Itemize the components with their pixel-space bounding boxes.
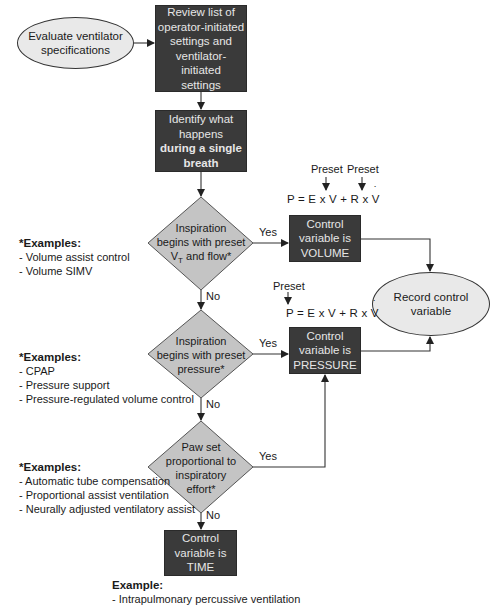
- decision1-line: Inspiration: [157, 221, 246, 235]
- example-item: - CPAP: [19, 364, 194, 378]
- example-item: - Automatic tube compensation: [19, 474, 195, 488]
- identify-line-bold: during a single: [160, 142, 242, 154]
- time-line: Control: [175, 531, 227, 546]
- examples-title: Example:: [112, 578, 300, 592]
- identify-line-bold: breath: [183, 157, 218, 169]
- volume-eq-preset2: Preset: [347, 163, 379, 175]
- time-line: TIME: [175, 560, 227, 575]
- eq-mid: + R x: [337, 193, 372, 205]
- review-settings-box: Review list of operator-initiated settin…: [155, 5, 247, 92]
- eq-flow-symbol: V: [372, 193, 380, 205]
- eq-lhs: P = E x: [286, 307, 328, 319]
- pressure-line: variable is: [293, 343, 356, 358]
- start-label-line2: specifications: [28, 43, 123, 58]
- pressure-control-box: Control variable is PRESSURE: [289, 327, 361, 374]
- examples-volume: *Examples: - Volume assist control - Vol…: [19, 236, 130, 278]
- time-line: variable is: [175, 546, 227, 561]
- examples-time: Example: - Intrapulmonary percussive ven…: [112, 578, 300, 606]
- identify-breath-box: Identify what happens during a single br…: [155, 110, 247, 172]
- review-line: ventilator-initiated: [156, 49, 246, 78]
- identify-line: happens: [160, 127, 242, 142]
- start-label-line1: Evaluate ventilator: [28, 29, 123, 44]
- eq-volume-symbol: V: [329, 193, 337, 205]
- review-line: settings: [156, 78, 246, 93]
- time-control-box: Control variable is TIME: [164, 530, 237, 576]
- examples-title: *Examples:: [19, 350, 194, 364]
- review-line: settings and: [156, 34, 246, 49]
- example-item: - Intrapulmonary percussive ventilation: [112, 592, 300, 606]
- decision1-yes-label: Yes: [259, 226, 277, 238]
- eq-volume-symbol: V: [328, 307, 336, 319]
- record-line: Record control: [394, 290, 469, 305]
- pressure-line: PRESSURE: [293, 358, 356, 373]
- examples-pressure: *Examples: - CPAP - Pressure support - P…: [19, 350, 194, 406]
- record-control-variable-oval: Record control variable: [372, 272, 490, 336]
- volume-line: Control: [299, 217, 351, 232]
- decision1-no-label: No: [206, 290, 220, 302]
- examples-proportional: *Examples: - Automatic tube compensation…: [19, 460, 195, 516]
- volume-line: variable is: [299, 231, 351, 246]
- volume-equation: P = E x V + R x V: [287, 193, 380, 205]
- pressure-equation: P = E x V + R x V: [286, 307, 379, 319]
- review-line: operator-initiated: [156, 20, 246, 35]
- volume-control-box: Control variable is VOLUME: [289, 215, 361, 262]
- start-oval: Evaluate ventilator specifications: [17, 17, 134, 69]
- examples-title: *Examples:: [19, 460, 195, 474]
- eq-lhs: P = E x: [287, 193, 329, 205]
- volume-line: VOLUME: [299, 246, 351, 261]
- decision2-yes-label: Yes: [259, 337, 277, 349]
- examples-title: *Examples:: [19, 236, 130, 250]
- volume-eq-preset1: Preset: [311, 163, 343, 175]
- example-item: - Neurally adjusted ventilatory assist: [19, 502, 195, 516]
- decision1-text: Inspiration begins with preset VT and fl…: [150, 222, 252, 266]
- example-item: - Volume assist control: [19, 250, 130, 264]
- decision1-line: and flow*: [183, 250, 231, 262]
- pressure-line: Control: [293, 329, 356, 344]
- eq-mid: + R x: [336, 307, 371, 319]
- decision3-yes-label: Yes: [259, 450, 277, 462]
- review-line: Review list of: [156, 5, 246, 20]
- identify-line: Identify what: [160, 112, 242, 127]
- record-line: variable: [394, 304, 469, 319]
- decision3-line: Paw set: [166, 440, 236, 454]
- decision3-no-label: No: [206, 509, 220, 521]
- decision2-no-label: No: [206, 398, 220, 410]
- decision2-line: Inspiration: [157, 334, 246, 348]
- pressure-eq-preset: Preset: [273, 280, 305, 292]
- example-item: - Pressure support: [19, 378, 194, 392]
- decision1-line: begins with preset: [157, 235, 246, 249]
- eq-flow-symbol: V: [371, 307, 379, 319]
- example-item: - Volume SIMV: [19, 264, 130, 278]
- example-item: - Pressure-regulated volume control: [19, 392, 194, 406]
- vt-symbol: V: [171, 250, 178, 262]
- example-item: - Proportional assist ventilation: [19, 488, 195, 502]
